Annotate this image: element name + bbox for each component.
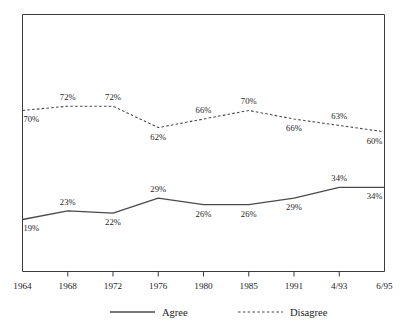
chart-legend: Agree Disagree — [110, 307, 328, 318]
data-point-label: 66% — [196, 105, 212, 115]
data-point-label: 34% — [367, 191, 383, 201]
data-point-label: 29% — [286, 202, 302, 212]
data-labels-disagree: 70%72%72%62%66%70%66%63%60% — [24, 92, 383, 146]
data-point-label: 22% — [105, 217, 121, 227]
x-axis-tick-labels: 19641968197219761980198519914/936/95 — [13, 281, 393, 291]
data-point-label: 19% — [24, 223, 40, 233]
legend-label-disagree: Disagree — [290, 307, 328, 318]
data-point-label: 34% — [331, 173, 347, 183]
x-axis-tick-label: 1980 — [194, 281, 213, 291]
data-point-label: 62% — [150, 132, 166, 142]
data-point-label: 26% — [241, 209, 257, 219]
data-labels-agree: 19%23%22%29%26%26%29%34%34% — [24, 173, 383, 233]
data-point-label: 72% — [105, 92, 121, 102]
data-point-label: 60% — [367, 136, 383, 146]
x-axis-tick-label: 6/95 — [376, 281, 393, 291]
x-axis-tick-label: 1968 — [59, 281, 78, 291]
data-point-label: 70% — [24, 114, 40, 124]
x-axis-tick-label: 4/93 — [331, 281, 348, 291]
data-point-label: 26% — [196, 209, 212, 219]
data-point-label: 29% — [150, 184, 166, 194]
x-axis-ticks — [68, 272, 340, 277]
data-point-label: 72% — [60, 92, 76, 102]
plot-frame — [23, 15, 385, 272]
x-axis-tick-label: 1972 — [104, 281, 123, 291]
chart-canvas: 19641968197219761980198519914/936/95 70%… — [0, 0, 405, 335]
line-chart: 19641968197219761980198519914/936/95 70%… — [0, 0, 405, 335]
x-axis-tick-label: 1991 — [285, 281, 304, 291]
x-axis-tick-label: 1976 — [149, 281, 168, 291]
data-point-label: 66% — [286, 123, 302, 133]
data-point-label: 70% — [241, 96, 257, 106]
data-point-label: 63% — [331, 111, 347, 121]
x-axis-tick-label: 1985 — [240, 281, 259, 291]
x-axis-tick-label: 1964 — [13, 281, 32, 291]
data-point-label: 23% — [60, 197, 76, 207]
legend-label-agree: Agree — [162, 307, 188, 318]
